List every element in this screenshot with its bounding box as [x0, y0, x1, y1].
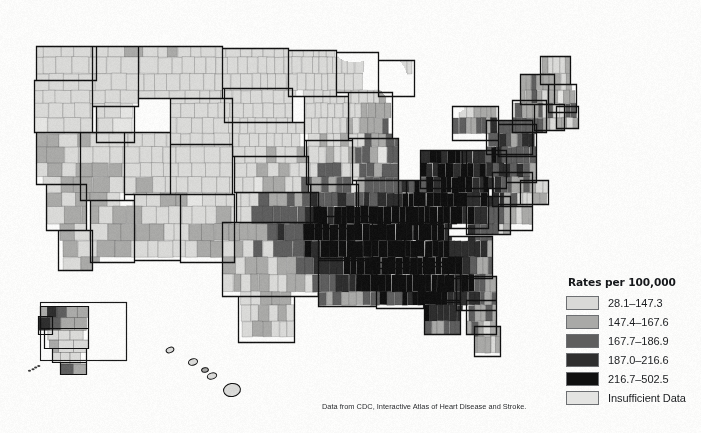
legend-entry-label: 147.4–167.6: [608, 316, 669, 328]
map-page: Heart Disease Death Rate, 2016–2018 Data…: [0, 0, 701, 433]
legend-entry: 216.7–502.5: [566, 370, 700, 388]
legend-entry-label: 216.7–502.5: [608, 373, 669, 385]
legend-entry-list: 28.1–147.3147.4–167.6167.7–186.9187.0–21…: [566, 294, 700, 407]
legend-entry: 147.4–167.6: [566, 313, 700, 331]
legend-entry: 167.7–186.9: [566, 332, 700, 350]
source-attribution: Data from CDC, Interactive Atlas of Hear…: [322, 402, 526, 411]
legend-entry-label: 167.7–186.9: [608, 335, 669, 347]
legend-entry-label: 187.0–216.6: [608, 354, 669, 366]
legend-entry-label: Insufficient Data: [608, 392, 686, 404]
map-legend: Rates per 100,000 28.1–147.3147.4–167.61…: [566, 276, 700, 408]
legend-color-swatch: [566, 391, 599, 405]
legend-entry: Insufficient Data: [566, 389, 700, 407]
legend-color-swatch: [566, 353, 599, 367]
legend-entry-label: 28.1–147.3: [608, 297, 663, 309]
legend-color-swatch: [566, 334, 599, 348]
legend-title: Rates per 100,000: [568, 276, 700, 288]
legend-entry: 187.0–216.6: [566, 351, 700, 369]
legend-color-swatch: [566, 296, 599, 310]
legend-color-swatch: [566, 372, 599, 386]
legend-color-swatch: [566, 315, 599, 329]
legend-entry: 28.1–147.3: [566, 294, 700, 312]
